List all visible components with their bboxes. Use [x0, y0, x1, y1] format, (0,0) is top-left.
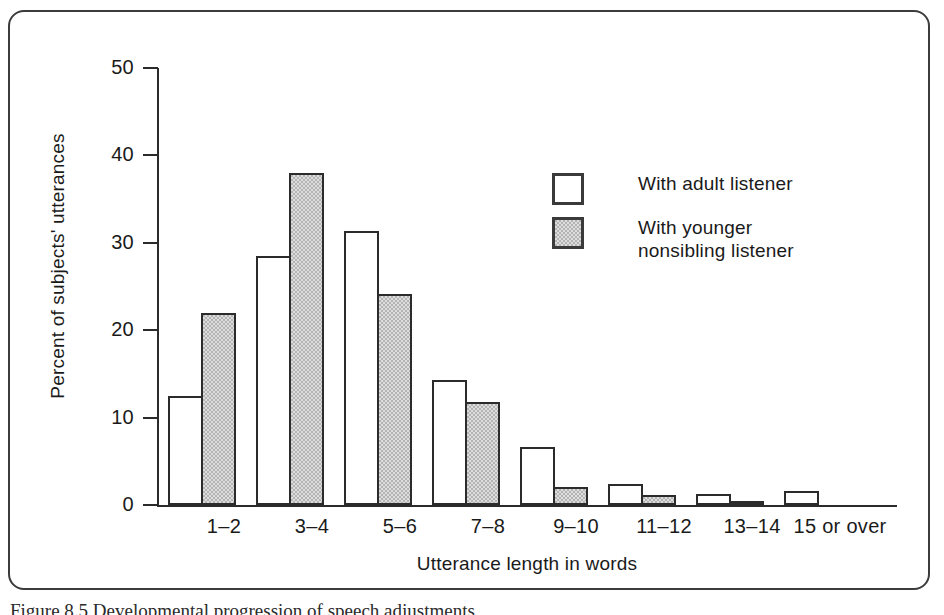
bar: [256, 256, 291, 505]
y-axis-tick: [143, 504, 158, 506]
figure-frame: 01020304050 Percent of subjects' utteran…: [8, 10, 930, 590]
legend-item: With adult listener: [552, 172, 794, 205]
bar: [729, 501, 764, 505]
y-axis-title: Percent of subjects' utterances: [47, 101, 69, 431]
y-axis-tick: [143, 417, 158, 419]
bar-group: [784, 68, 854, 505]
bar: [520, 447, 555, 505]
bar-group: [168, 68, 238, 505]
bar-group: [696, 68, 766, 505]
bar: [465, 402, 500, 505]
y-axis-tick: [143, 329, 158, 331]
y-axis-tick: [143, 67, 158, 69]
plot-area: [158, 68, 898, 505]
y-axis-tick: [143, 154, 158, 156]
y-axis-tick-label: 40: [74, 144, 134, 164]
legend-item-label: With younger nonsibling listener: [638, 216, 794, 262]
bar: [344, 231, 379, 505]
legend-item: With younger nonsibling listener: [552, 216, 794, 262]
bar-group: [608, 68, 678, 505]
y-axis-tick-label: 10: [74, 407, 134, 427]
bar: [641, 495, 676, 505]
legend: With adult listenerWith younger nonsibli…: [552, 172, 794, 273]
bar: [168, 396, 203, 505]
y-axis-tick: [143, 242, 158, 244]
y-axis-tick-label: 20: [74, 319, 134, 339]
bar: [377, 294, 412, 505]
bar: [696, 494, 731, 505]
legend-item-label: With adult listener: [638, 172, 793, 195]
bar: [289, 173, 324, 505]
x-axis-line: [157, 505, 897, 507]
figure-caption: Figure 8.5 Developmental progression of …: [10, 600, 930, 615]
bar-group: [344, 68, 414, 505]
y-axis-tick-label: 30: [74, 232, 134, 252]
bar-group: [432, 68, 502, 505]
x-axis-title: Utterance length in words: [157, 553, 897, 575]
bar: [432, 380, 467, 505]
bar-group: [256, 68, 326, 505]
bar: [608, 484, 643, 505]
y-axis-tick-label: 50: [74, 57, 134, 77]
bar: [784, 491, 819, 505]
white-square-icon: [552, 173, 584, 205]
y-axis-tick-label: 0: [74, 494, 134, 514]
gray-square-icon: [552, 217, 584, 249]
bar: [201, 313, 236, 505]
bar-group: [520, 68, 590, 505]
x-axis-tick-label: 15 or over: [775, 515, 905, 538]
bar: [553, 487, 588, 505]
